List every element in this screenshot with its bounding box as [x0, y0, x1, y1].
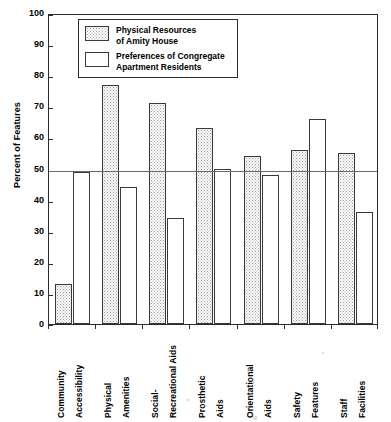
y-axis-tick-label: 40 [22, 196, 44, 205]
bar [73, 172, 90, 324]
bar [214, 169, 231, 325]
x-axis-tick-mark [284, 325, 285, 329]
x-axis-category-line: Community [56, 370, 66, 418]
x-axis-tick-mark [377, 325, 378, 329]
y-axis-tick-label: 20 [22, 258, 44, 267]
bar [196, 128, 213, 324]
legend-item-physical-resources: Physical Resources of Amity House [85, 25, 232, 46]
scan-artifact [186, 399, 189, 401]
bar [149, 103, 166, 324]
y-axis-tick-label: 90 [22, 40, 44, 49]
legend-swatch-open-icon [85, 52, 109, 67]
x-axis-category-line: Orientational [245, 364, 255, 418]
x-axis-category-line: Social- [150, 389, 160, 418]
bar [102, 85, 119, 324]
x-axis-category-line: Staff [339, 399, 349, 418]
y-axis-tick-label: 60 [22, 133, 44, 142]
bar-group [332, 15, 379, 324]
x-axis-tick-mark [95, 325, 96, 329]
x-axis-tick-mark [189, 325, 190, 329]
x-axis-category-line: Safety [292, 392, 302, 418]
fifty-percent-reference-line [49, 171, 377, 172]
scan-artifact [252, 381, 254, 384]
scan-artifact [322, 352, 324, 354]
x-axis-category-labels: CommunityAccessibilityPhysicalAmenitiesS… [48, 330, 378, 422]
bar-group [285, 15, 332, 324]
y-axis-tick-label: 50 [22, 165, 44, 174]
y-axis-tick-labels: 1009080706050403020100 [20, 0, 44, 422]
x-axis-category-label: CommunityAccessibility [48, 330, 95, 420]
x-axis-category-label: PhysicalAmenities [95, 330, 142, 420]
chart-legend: Physical Resources of Amity House Prefer… [78, 19, 238, 78]
legend-label-line: Preferences of Congregate [116, 51, 225, 62]
x-axis-category-label: Social-Recreational Aids [142, 330, 189, 420]
legend-label-line: of Amity House [116, 36, 196, 47]
x-axis-category-label: ProstheticAids [189, 330, 236, 420]
x-axis-category-label: StaffFacilities [331, 330, 378, 420]
x-axis-category-line: Accessibility [74, 365, 84, 418]
scan-artifact [247, 368, 250, 372]
bar [244, 156, 261, 324]
x-axis-category-line: Physical [103, 383, 113, 418]
bar [262, 175, 279, 324]
bar [120, 187, 137, 324]
bar [167, 218, 184, 324]
x-axis-category-line: Amenities [121, 376, 131, 418]
bar-group [238, 15, 285, 324]
x-axis-category-label: OrientationalAids [237, 330, 284, 420]
x-axis-tick-mark [142, 325, 143, 329]
bar [55, 284, 72, 324]
x-axis-category-line: Aids [263, 399, 273, 418]
legend-label-preferences: Preferences of Congregate Apartment Resi… [116, 51, 225, 72]
x-axis-tick-mark [237, 325, 238, 329]
legend-label-physical-resources: Physical Resources of Amity House [116, 25, 196, 46]
x-axis-category-line: Prosthetic [197, 375, 207, 418]
x-axis-tick-mark [331, 325, 332, 329]
legend-label-line: Physical Resources [116, 25, 196, 36]
bar [338, 153, 355, 324]
bar [356, 212, 373, 324]
bar-chart-figure: Percent of Features 10090807060504030201… [0, 0, 391, 422]
legend-swatch-stippled-icon [85, 26, 109, 41]
y-axis-tick-label: 0 [22, 320, 44, 329]
bar [291, 150, 308, 324]
legend-label-line: Apartment Residents [116, 62, 225, 73]
y-axis-tick-label: 10 [22, 289, 44, 298]
x-axis-category-label: SafetyFeatures [284, 330, 331, 420]
x-axis-category-line: Recreational Aids [168, 345, 178, 418]
legend-item-preferences: Preferences of Congregate Apartment Resi… [85, 51, 232, 72]
y-axis-tick-label: 80 [22, 71, 44, 80]
x-axis-category-line: Features [310, 382, 320, 418]
x-axis-category-line: Aids [215, 399, 225, 418]
y-axis-tick-label: 100 [22, 9, 44, 18]
y-axis-tick-label: 30 [22, 227, 44, 236]
x-axis-category-line: Facilities [357, 381, 367, 418]
scan-artifact [253, 416, 257, 420]
y-axis-tick-label: 70 [22, 102, 44, 111]
bar [309, 119, 326, 324]
x-axis-tick-mark [48, 325, 49, 329]
